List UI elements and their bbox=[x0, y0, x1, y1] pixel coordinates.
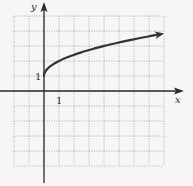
function-graph: y x 1 1 bbox=[0, 0, 193, 186]
y-axis-label: y bbox=[30, 1, 37, 12]
x-axis-label: x bbox=[175, 94, 181, 105]
curve bbox=[44, 34, 160, 76]
axes bbox=[0, 2, 184, 183]
y-tick-label: 1 bbox=[35, 71, 41, 82]
x-tick-label: 1 bbox=[56, 95, 62, 106]
